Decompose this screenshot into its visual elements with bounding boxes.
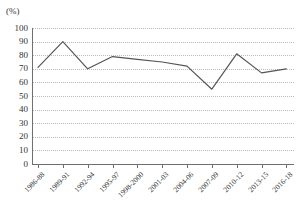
x-tick-1986-88 — [38, 164, 39, 168]
x-tick-2010-12 — [237, 164, 238, 168]
x-tick-1992-94 — [88, 164, 89, 168]
y-tick-label-10: 10 — [2, 146, 28, 155]
y-axis-unit-label: (%) — [6, 6, 20, 16]
series-line — [32, 28, 294, 164]
x-tick-2016-18 — [286, 164, 287, 168]
y-tick-label-0: 0 — [2, 160, 28, 169]
x-tick-2013-15 — [262, 164, 263, 168]
y-tick-label-70: 70 — [2, 64, 28, 73]
x-tick-2001-03 — [162, 164, 163, 168]
y-tick-label-40: 40 — [2, 105, 28, 114]
y-tick-label-50: 50 — [2, 92, 28, 101]
x-tick-2004-06 — [187, 164, 188, 168]
x-tick-1989-91 — [63, 164, 64, 168]
y-tick-label-60: 60 — [2, 78, 28, 87]
y-tick-label-90: 90 — [2, 37, 28, 46]
y-tick-label-80: 80 — [2, 51, 28, 60]
x-tick-1998-2000 — [137, 164, 138, 168]
line-chart: (%) 1009080706050403020100 1986-881989-9… — [0, 0, 306, 217]
y-tick-label-100: 100 — [2, 24, 28, 33]
x-tick-2007-09 — [212, 164, 213, 168]
series-polyline — [38, 42, 286, 90]
y-tick-label-20: 20 — [2, 132, 28, 141]
x-tick-1995-97 — [113, 164, 114, 168]
y-tick-label-30: 30 — [2, 119, 28, 128]
